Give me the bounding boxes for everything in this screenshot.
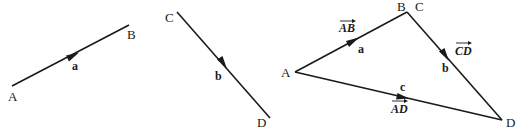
vector-name-ad-text: AD xyxy=(390,102,408,116)
vector-name-cd-text: CD xyxy=(455,44,472,58)
point-label-b-end: B xyxy=(127,27,136,42)
figure-vector-b: C D b xyxy=(165,10,270,130)
vertex-label-d: D xyxy=(506,115,515,130)
vector-label-a: a xyxy=(358,42,364,56)
point-label-d-end: D xyxy=(257,115,266,130)
point-label-c-start: C xyxy=(165,10,174,25)
vector-name-cd: CD xyxy=(455,41,472,58)
point-label-a-start: A xyxy=(8,89,18,104)
vector-label-b: b xyxy=(442,61,449,75)
figure-vector-triangle: A B C D AB a CD b c AD xyxy=(281,0,515,130)
figure-vector-a: A B a xyxy=(8,25,136,104)
vertex-label-a: A xyxy=(281,65,291,80)
arrowhead-icon xyxy=(217,56,227,69)
vector-name-ab: AB xyxy=(338,19,356,35)
segment-cd xyxy=(407,12,502,120)
vector-diagram: A B a C D b A B C D AB a xyxy=(0,0,519,133)
vector-label-a: a xyxy=(72,59,78,73)
vector-name-ab-text: AB xyxy=(338,21,355,35)
vector-label-c: c xyxy=(400,80,406,94)
vertex-label-c: C xyxy=(415,0,424,14)
vector-name-ad: AD xyxy=(390,99,408,116)
vector-label-b: b xyxy=(215,69,222,83)
vertex-label-b: B xyxy=(397,0,406,14)
